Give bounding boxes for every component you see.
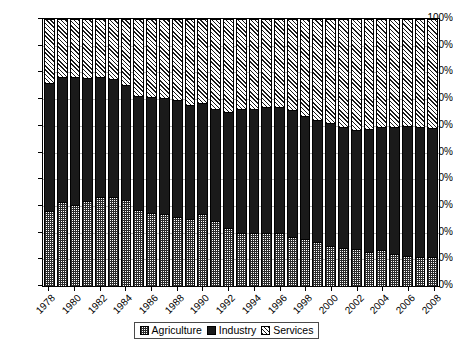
segment-agriculture [287,237,298,286]
segment-agriculture [351,249,362,286]
segment-agriculture [364,252,375,286]
legend-item-industry: Industry [207,325,256,336]
segment-services [300,19,311,116]
bar-1987 [158,19,171,286]
segment-industry [108,79,119,198]
bar-1986 [145,19,158,286]
bar-1978 [43,19,56,286]
segment-industry [274,107,285,234]
segment-services [427,19,438,128]
bar-1982 [94,19,107,286]
bar-1992 [222,19,235,286]
bar-2004 [375,19,388,286]
segment-industry [185,105,196,219]
bar-1997 [286,19,299,286]
x-tick-mark [434,287,435,291]
x-tick-label: 2008 [414,293,442,321]
bar-2003 [363,19,376,286]
segment-agriculture [402,256,413,286]
industry-swatch-icon [207,326,216,335]
bar-1999 [311,19,324,286]
x-tick-label: 1996 [260,293,288,321]
segment-industry [159,98,170,214]
x-tick-mark [48,287,49,291]
segment-services [274,19,285,107]
x-tick-mark [100,287,101,291]
x-tick-mark [280,287,281,291]
segment-agriculture [121,200,132,286]
bar-series-container [43,19,439,286]
segment-services [57,19,68,77]
segment-services [159,19,170,98]
segment-services [325,19,336,123]
segment-agriculture [70,205,81,286]
segment-agriculture [312,242,323,286]
legend-label-services: Services [273,325,313,336]
segment-industry [44,83,55,211]
bar-2007 [414,19,427,286]
segment-industry [415,127,426,257]
segment-industry [249,109,260,233]
segment-services [249,19,260,109]
bar-2006 [401,19,414,286]
segment-agriculture [82,201,93,286]
x-tick-mark [408,287,409,291]
segment-agriculture [415,257,426,286]
bar-1988 [171,19,184,286]
services-swatch-icon [261,326,270,335]
segment-agriculture [325,246,336,286]
x-tick-label: 1978 [29,293,57,321]
bar-2000 [324,19,337,286]
x-tick-mark [382,287,383,291]
segment-industry [351,130,362,250]
segment-agriculture [172,217,183,286]
bar-1996 [273,19,286,286]
segment-services [172,19,183,100]
bar-1984 [120,19,133,286]
x-tick-label: 1992 [209,293,237,321]
x-tick-mark [151,287,152,291]
segment-agriculture [427,257,438,286]
legend-item-agriculture: Agriculture [140,325,202,336]
segment-industry [70,77,81,206]
segment-services [376,19,387,127]
x-tick-label: 1986 [132,293,160,321]
segment-services [402,19,413,126]
segment-services [223,19,234,112]
bar-1990 [196,19,209,286]
segment-industry [82,78,93,201]
bar-1989 [184,19,197,286]
segment-services [338,19,349,127]
bar-1981 [81,19,94,286]
stacked-bar-chart: 0%10%20%30%40%50%60%70%80%90%100% 197819… [0,0,453,350]
segment-services [415,19,426,127]
segment-agriculture [146,213,157,286]
segment-agriculture [95,197,106,286]
segment-services [364,19,375,129]
segment-services [108,19,119,79]
x-tick-label: 1990 [183,293,211,321]
segment-industry [121,85,132,200]
x-tick-label: 1994 [235,293,263,321]
segment-industry [197,103,208,213]
x-tick-mark [331,287,332,291]
legend-label-industry: Industry [219,325,256,336]
x-tick-mark [305,287,306,291]
legend-item-services: Services [261,325,313,336]
plot-area [42,18,440,287]
segment-agriculture [376,250,387,286]
segment-services [185,19,196,105]
x-tick-label: 2006 [389,293,417,321]
segment-agriculture [57,202,68,286]
segment-industry [95,77,106,197]
segment-agriculture [249,233,260,286]
segment-services [351,19,362,130]
segment-services [121,19,132,85]
x-tick-mark [177,287,178,291]
bar-1991 [209,19,222,286]
segment-industry [364,129,375,252]
segment-agriculture [159,214,170,286]
segment-agriculture [197,214,208,286]
segment-services [146,19,157,97]
segment-agriculture [338,248,349,286]
